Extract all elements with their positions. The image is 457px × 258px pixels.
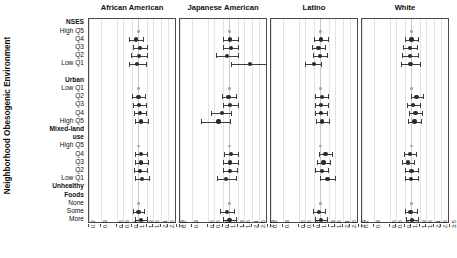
row-category-label: Q3 bbox=[75, 158, 84, 165]
x-tick-mark bbox=[146, 224, 147, 227]
gridline bbox=[123, 19, 124, 222]
ci-cap bbox=[133, 209, 134, 214]
x-tick-label: 0.3 bbox=[102, 220, 108, 228]
estimate-point bbox=[139, 160, 143, 164]
ci-cap bbox=[147, 45, 148, 50]
row-category-label: Q2 bbox=[75, 92, 84, 99]
row-category-label: Q3 bbox=[75, 100, 84, 107]
ci-cap bbox=[417, 45, 418, 50]
ci-cap bbox=[223, 37, 224, 42]
ci-cap bbox=[405, 209, 406, 214]
reference-point bbox=[228, 202, 231, 205]
ci-cap bbox=[325, 209, 326, 214]
gridline bbox=[252, 19, 253, 222]
estimate-point bbox=[228, 160, 232, 164]
estimate-point bbox=[138, 46, 142, 50]
panel-title: African American bbox=[89, 3, 175, 12]
ci-cap bbox=[230, 119, 231, 124]
gridline bbox=[168, 19, 169, 222]
ci-cap bbox=[414, 160, 415, 165]
estimate-point bbox=[320, 119, 324, 123]
panel-title: Japanese American bbox=[180, 3, 266, 12]
ci-cap bbox=[135, 152, 136, 157]
estimate-point bbox=[318, 54, 322, 58]
estimate-point bbox=[229, 152, 233, 156]
row-category-label: High Q5 bbox=[60, 117, 84, 124]
reference-point bbox=[410, 202, 413, 205]
ci-cap bbox=[335, 176, 336, 181]
x-tick-mark bbox=[425, 224, 426, 227]
estimate-point bbox=[225, 210, 229, 214]
estimate-point bbox=[409, 177, 413, 181]
row-category-label: More bbox=[69, 215, 84, 222]
x-tick-label: 2.6 bbox=[442, 220, 448, 228]
estimate-point bbox=[411, 103, 415, 107]
ci-cap bbox=[327, 217, 328, 222]
plot-area bbox=[180, 19, 266, 222]
row-category-label: Q4 bbox=[75, 35, 84, 42]
gridline bbox=[208, 19, 209, 222]
ci-cap bbox=[417, 209, 418, 214]
row-category-label: Q2 bbox=[75, 51, 84, 58]
reference-point bbox=[228, 30, 231, 33]
ci-cap bbox=[147, 168, 148, 173]
x-tick-label: 0.3 bbox=[375, 220, 381, 228]
gridline bbox=[350, 19, 351, 222]
gridline bbox=[405, 19, 406, 222]
ci-cap bbox=[314, 37, 315, 42]
gridline bbox=[161, 19, 162, 222]
ci-cap bbox=[133, 45, 134, 50]
estimate-point bbox=[228, 169, 232, 173]
x-tick-label: 0.6 bbox=[397, 220, 403, 228]
ci-cap bbox=[231, 62, 232, 67]
row-label-column: NSESHigh Q5Q4Q3Q2Low Q1UrbanLow Q1Q2Q3Q4… bbox=[16, 18, 86, 223]
ci-cap bbox=[315, 94, 316, 99]
panel-title: White bbox=[362, 3, 448, 12]
estimate-point bbox=[319, 37, 323, 41]
gridline bbox=[299, 19, 300, 222]
estimate-point bbox=[140, 177, 144, 181]
ci-cap bbox=[420, 62, 421, 67]
x-tick-mark bbox=[167, 224, 168, 227]
x-axis-ticks: 0.20.30.50.60.81.01.31.62.12.63.5 bbox=[361, 227, 449, 253]
estimate-point bbox=[216, 119, 220, 123]
ci-cap bbox=[149, 176, 150, 181]
ci-cap bbox=[223, 103, 224, 108]
row-category-label: Some bbox=[67, 207, 84, 214]
ci-cap bbox=[148, 119, 149, 124]
reference-point bbox=[319, 87, 322, 90]
panel-african-american: African American bbox=[88, 18, 176, 223]
estimate-point bbox=[137, 103, 141, 107]
estimate-point bbox=[412, 119, 416, 123]
plot-area bbox=[89, 19, 175, 222]
ci-cap bbox=[132, 94, 133, 99]
ci-cap bbox=[231, 111, 232, 116]
gridline bbox=[305, 19, 306, 222]
row-group-label: NSES bbox=[66, 18, 84, 25]
estimate-point bbox=[413, 111, 417, 115]
ci-cap bbox=[328, 103, 329, 108]
x-tick-mark bbox=[258, 224, 259, 227]
x-tick-label: 3.5 bbox=[451, 220, 457, 228]
ci-cap bbox=[238, 152, 239, 157]
row-category-label: Low Q1 bbox=[61, 59, 84, 66]
estimate-point bbox=[136, 95, 140, 99]
row-category-label: Low Q1 bbox=[61, 174, 84, 181]
x-tick-label: 0.2 bbox=[272, 220, 278, 228]
row-category-label: Q4 bbox=[75, 150, 84, 157]
estimate-point bbox=[408, 46, 412, 50]
ci-cap bbox=[401, 62, 402, 67]
x-tick-mark bbox=[395, 224, 396, 227]
ci-cap bbox=[317, 160, 318, 165]
ci-cap bbox=[328, 37, 329, 42]
ci-cap bbox=[409, 111, 410, 116]
x-tick-mark bbox=[404, 224, 405, 227]
reference-point bbox=[137, 202, 140, 205]
x-tick-mark bbox=[304, 224, 305, 227]
ci-cap bbox=[238, 53, 239, 58]
x-tick-mark bbox=[122, 224, 123, 227]
ci-cap bbox=[423, 94, 424, 99]
x-tick-mark bbox=[349, 224, 350, 227]
estimate-point bbox=[323, 152, 327, 156]
estimate-point bbox=[414, 95, 418, 99]
